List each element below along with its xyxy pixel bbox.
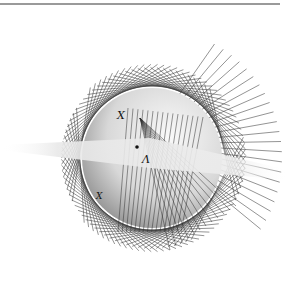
point-marker bbox=[135, 145, 139, 149]
label-x-lower: X bbox=[95, 191, 103, 201]
sphere-diagram: X Λ X bbox=[0, 0, 289, 289]
label-x-upper: X bbox=[116, 109, 126, 122]
label-lambda: Λ bbox=[141, 153, 150, 166]
